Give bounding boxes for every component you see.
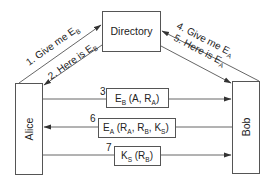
bob-node: Bob [233, 82, 260, 174]
alice-node: Alice [16, 84, 43, 175]
alice-label: Alice [23, 117, 35, 140]
message-7-step: 7 [106, 142, 112, 153]
message-3-step: 3 [100, 86, 106, 97]
bob-label: Bob [240, 118, 252, 137]
message-3: 3 EB (A, RA) [43, 86, 231, 108]
message-6: 6 EA (RA, RB, KS) [44, 113, 232, 138]
directory-node: Directory [103, 12, 161, 52]
directory-label: Directory [110, 25, 153, 37]
message-7: 7 KS (RB) [43, 142, 231, 166]
message-6-step: 6 [90, 113, 96, 124]
protocol-diagram: Directory Alice Bob 1. Give me EB 2. Her… [0, 0, 273, 183]
